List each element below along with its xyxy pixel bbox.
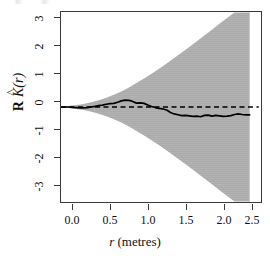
y-axis-label-khat: ^K	[11, 88, 27, 97]
chart-svg	[61, 12, 261, 202]
y-axis-label-r: R	[11, 101, 26, 111]
x-tick-label: 1.5	[169, 213, 203, 228]
x-tick-label: 1.0	[131, 213, 165, 228]
y-tick-label: 2	[32, 36, 47, 58]
x-tick-mark	[72, 204, 73, 210]
y-tick-label: -2	[32, 148, 47, 170]
x-tick-mark	[186, 204, 187, 210]
x-tick-mark	[224, 204, 225, 210]
y-tick-label: -3	[32, 176, 47, 198]
y-tick-label: 1	[32, 64, 47, 86]
y-tick-label: 0	[32, 92, 47, 114]
plot-area	[60, 11, 262, 203]
x-tick-mark	[110, 204, 111, 210]
hat-accent: ^	[3, 88, 19, 97]
y-tick-label: 3	[32, 8, 47, 30]
x-tick-mark	[148, 204, 149, 210]
scan-artifact	[14, 0, 74, 4]
figure-root: R^K(r) 3 2 1 0 -1 -2 -3 0.0 0.5 1.0 1.5 …	[0, 0, 270, 260]
x-tick-label: 2.5	[235, 213, 269, 228]
x-tick-label: 0.5	[93, 213, 127, 228]
x-tick-label: 0.0	[55, 213, 89, 228]
x-tick-mark	[252, 204, 253, 210]
y-axis-label: R^K(r)	[11, 37, 27, 147]
y-tick-label: -1	[32, 120, 47, 142]
x-axis-label-units: (metres)	[114, 234, 161, 249]
y-axis-label-arg: (r)	[11, 73, 26, 88]
x-axis-label: r (metres)	[0, 234, 270, 250]
